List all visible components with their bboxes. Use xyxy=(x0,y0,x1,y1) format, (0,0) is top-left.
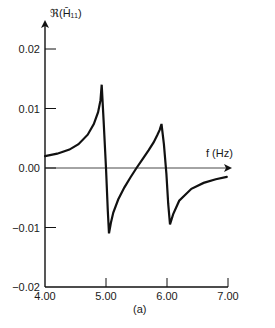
chart-canvas: −0.02−0.010.000.010.024.005.006.007.00 ℜ… xyxy=(0,0,275,328)
x-axis-label: f (Hz) xyxy=(206,147,233,159)
x-tick-label: 7.00 xyxy=(217,290,238,302)
ticks: −0.02−0.010.000.010.024.005.006.007.00 xyxy=(12,43,239,302)
axes xyxy=(45,22,230,287)
y-axis-label: ℜ(H̄₁₁) xyxy=(50,7,82,19)
x-tick-label: 4.00 xyxy=(34,290,55,302)
y-tick-label: 0.01 xyxy=(19,103,40,115)
x-tick-label: 5.00 xyxy=(95,290,116,302)
y-tick-label: −0.01 xyxy=(12,222,40,234)
figure-caption: (a) xyxy=(133,303,146,315)
series-line xyxy=(45,85,227,234)
y-tick-label: 0.00 xyxy=(19,162,40,174)
x-tick-label: 6.00 xyxy=(156,290,177,302)
y-tick-label: 0.02 xyxy=(19,43,40,55)
data-series xyxy=(45,85,227,234)
